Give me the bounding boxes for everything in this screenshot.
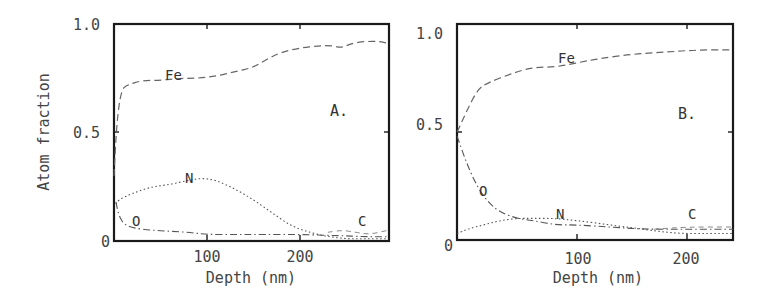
y-tick-label: 0.5 xyxy=(73,124,100,142)
curve-label-o: O xyxy=(132,213,140,229)
x-tick-label: 100 xyxy=(564,250,591,268)
y-tick-label: 1.0 xyxy=(73,16,100,34)
y-tick-label: 1.0 xyxy=(416,25,443,43)
y-axis-title: Atom fraction xyxy=(35,73,53,190)
x-tick-label: 100 xyxy=(193,248,220,266)
curve-label-fe: Fe xyxy=(558,50,575,66)
curve-label-n: N xyxy=(185,170,193,186)
panel-label-b: B. xyxy=(678,105,696,123)
curve-label-c: C xyxy=(688,206,696,222)
plot-frame-a xyxy=(114,24,389,241)
y-tick-label: 0.5 xyxy=(416,116,443,134)
series-n-a xyxy=(116,179,389,239)
curve-label-fe: Fe xyxy=(165,67,182,83)
chart-panel-b: 1.0 0.5 0 100 200 Depth (nm) Fe O N C B. xyxy=(416,24,733,287)
x-axis-title-b: Depth (nm) xyxy=(553,269,643,287)
series-c-a xyxy=(328,230,389,234)
x-tick-label: 200 xyxy=(672,250,699,268)
figure: Atom fraction 1.0 0.5 0 100 200 Depth (n… xyxy=(0,0,766,305)
y-tick-label: 0 xyxy=(101,233,110,251)
y-tick-label: 0 xyxy=(444,237,453,255)
curve-label-n: N xyxy=(556,206,564,222)
x-axis-title-a: Depth (nm) xyxy=(206,269,296,287)
chart-panel-a: 1.0 0.5 0 100 200 Depth (nm) Fe N O C A. xyxy=(73,16,389,287)
x-tick-label: 200 xyxy=(286,248,313,266)
panel-label-a: A. xyxy=(330,102,348,120)
curve-label-c: C xyxy=(358,213,366,229)
curve-label-o: O xyxy=(479,183,487,199)
